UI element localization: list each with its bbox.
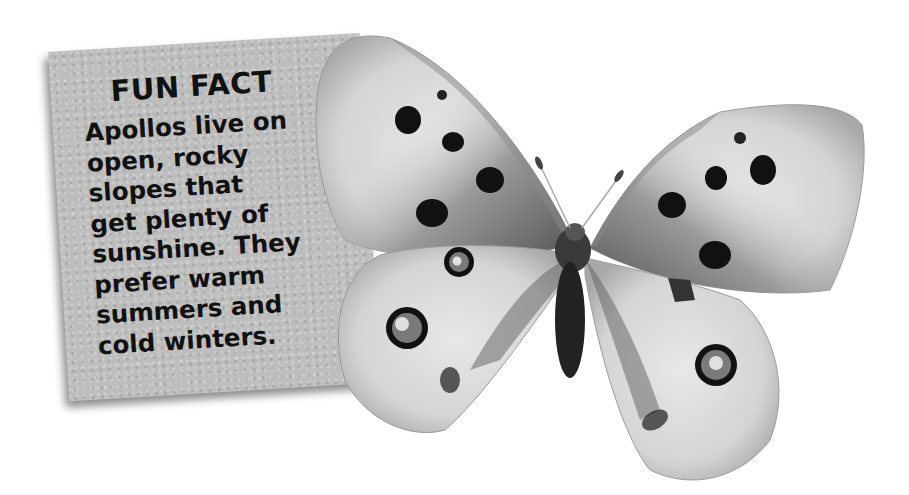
- apollo-butterfly-image: [300, 20, 880, 495]
- left-hindwing: [338, 246, 575, 433]
- right-forewing: [590, 105, 864, 293]
- left-forewing: [316, 36, 575, 258]
- butterfly-body: [555, 223, 591, 378]
